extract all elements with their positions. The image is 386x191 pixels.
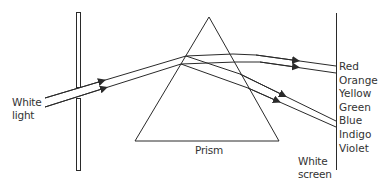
barrier-lower bbox=[77, 99, 81, 171]
slit-barrier bbox=[77, 13, 81, 171]
white-light-label-line2: light bbox=[12, 109, 42, 122]
white-screen-label-line1: White bbox=[298, 155, 332, 168]
indigo-violet-rays bbox=[181, 56, 336, 127]
spectrum-orange: Orange bbox=[339, 74, 378, 88]
white-screen-label: White screen bbox=[298, 155, 332, 181]
spectrum-labels: Red Orange Yellow Green Blue Indigo Viol… bbox=[339, 60, 378, 155]
white-light-label-line1: White bbox=[12, 96, 42, 109]
spectrum-yellow: Yellow bbox=[339, 87, 378, 101]
red-orange-rays bbox=[181, 54, 336, 73]
spectrum-blue: Blue bbox=[339, 114, 378, 128]
spectrum-red: Red bbox=[339, 60, 378, 74]
incoming-rays bbox=[45, 56, 186, 107]
prism-triangle bbox=[135, 17, 279, 141]
barrier-upper bbox=[77, 13, 81, 88]
spectrum-green: Green bbox=[339, 101, 378, 115]
white-screen-label-line2: screen bbox=[298, 168, 332, 181]
white-light-label: White light bbox=[12, 96, 42, 122]
spectrum-indigo: Indigo bbox=[339, 128, 378, 142]
prism-label: Prism bbox=[195, 144, 223, 157]
spectrum-violet: Violet bbox=[339, 142, 378, 156]
